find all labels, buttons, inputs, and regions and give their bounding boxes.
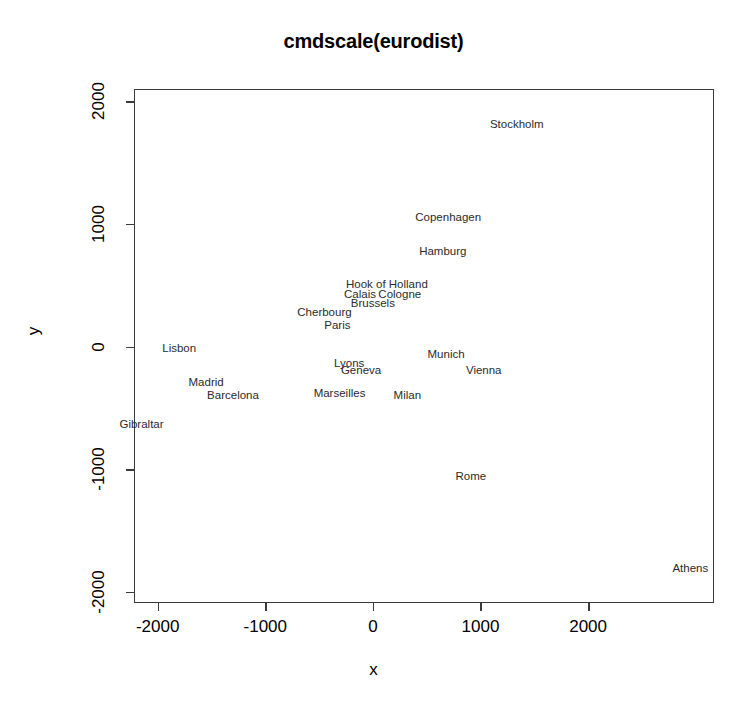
x-axis-tick-label: 2000 <box>569 617 607 637</box>
city-label: Paris <box>324 320 350 332</box>
city-label: Cherbourg <box>297 308 351 320</box>
chart-figure: cmdscale(eurodist) AthensBarcelonaBrusse… <box>0 0 747 703</box>
y-axis-tick <box>126 592 134 594</box>
city-label: Barcelona <box>207 390 259 402</box>
x-axis-tick <box>265 603 267 611</box>
x-axis-tick <box>373 603 375 611</box>
city-label: Marseilles <box>314 389 366 401</box>
city-label: Lyons <box>334 358 364 370</box>
y-axis-tick <box>126 101 134 103</box>
city-label: Athens <box>672 563 708 575</box>
city-label: Stockholm <box>490 119 544 131</box>
y-axis-tick-label-text: 2000 <box>89 82 109 120</box>
y-axis-tick-label: 1000 <box>82 214 116 234</box>
y-axis-tick-label: -1000 <box>82 459 116 479</box>
y-axis-title: y <box>24 327 44 336</box>
city-label: Calais <box>344 289 376 301</box>
y-axis-tick-label-text: -2000 <box>89 570 109 613</box>
city-label: Cologne <box>378 289 421 301</box>
y-axis-tick-label-text: 1000 <box>89 205 109 243</box>
city-label: Vienna <box>466 365 502 377</box>
y-axis-tick-label: 2000 <box>82 91 116 111</box>
y-axis-tick <box>126 469 134 471</box>
city-label: Copenhagen <box>415 212 481 224</box>
x-axis-tick-label: -2000 <box>136 617 179 637</box>
city-label: Lisbon <box>162 343 196 355</box>
city-label: Rome <box>455 471 486 483</box>
scatter-labels-layer: AthensBarcelonaBrusselsCalaisCherbourgCo… <box>134 89 714 603</box>
city-label: Munich <box>428 349 465 361</box>
y-axis-tick-label-text: -1000 <box>89 448 109 491</box>
city-label: Madrid <box>189 378 224 390</box>
x-axis-title: x <box>0 660 747 680</box>
x-axis-tick <box>480 603 482 611</box>
y-axis-tick-label-text: 0 <box>89 342 109 351</box>
city-label: Gibraltar <box>119 419 163 431</box>
x-axis-tick-label: -1000 <box>244 617 287 637</box>
y-axis-tick <box>126 224 134 226</box>
city-label: Hook of Holland <box>346 280 428 292</box>
x-axis-tick-label: 0 <box>368 617 377 637</box>
y-axis-tick-label: -2000 <box>82 582 116 602</box>
y-axis-tick-label: 0 <box>82 337 116 357</box>
y-axis-tick <box>126 347 134 349</box>
city-label: Hamburg <box>419 246 466 258</box>
city-label: Milan <box>394 390 421 402</box>
x-axis-tick-label: 1000 <box>462 617 500 637</box>
chart-title: cmdscale(eurodist) <box>0 30 747 53</box>
x-axis-tick <box>158 603 160 611</box>
x-axis-tick <box>588 603 590 611</box>
